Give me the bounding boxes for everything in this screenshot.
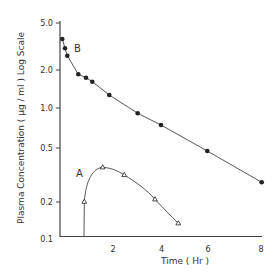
pharmacokinetic-chart: 5.02.01.00.50.20.12468 B A Time ( Hr ) P… (0, 0, 275, 278)
series-b-label: B (74, 43, 81, 54)
x-axis-title: Time ( Hr ) (160, 256, 209, 266)
x-tick-label: 8 (258, 244, 263, 254)
series-b-point-icon (60, 37, 65, 42)
series-a-label: A (76, 168, 83, 179)
y-tick-label: 0.2 (40, 197, 53, 207)
series-b-point-icon (63, 46, 68, 51)
series-a-line (84, 167, 178, 237)
y-tick-label: 0.5 (40, 143, 53, 153)
series-b-curve (60, 37, 264, 185)
y-tick-label: 1.0 (40, 103, 53, 113)
y-tick-label: 0.1 (40, 234, 53, 244)
series-b-point-icon (65, 53, 70, 58)
y-axis-title: Plasma Concentration ( µg / ml ) Log Sca… (16, 32, 26, 224)
series-b-line (62, 39, 261, 182)
series-a-triangle-icon (100, 165, 105, 169)
series-a-curve (82, 165, 181, 237)
series-b-point-icon (135, 111, 140, 116)
x-tick-label: 6 (205, 244, 210, 254)
x-tick-label: 4 (159, 244, 164, 254)
series-b-point-icon (84, 75, 89, 80)
series-b-point-icon (76, 72, 81, 77)
series-a-triangle-icon (122, 172, 127, 176)
x-tick-label: 2 (110, 244, 115, 254)
series-b-point-icon (90, 79, 95, 84)
series-b-point-icon (107, 93, 112, 98)
series-a-triangle-icon (82, 199, 87, 203)
y-tick-label: 5.0 (40, 18, 53, 28)
series-b-point-icon (159, 123, 164, 128)
series-b-point-icon (259, 180, 264, 185)
y-tick-label: 2.0 (40, 65, 53, 75)
series-b-point-icon (205, 149, 210, 154)
